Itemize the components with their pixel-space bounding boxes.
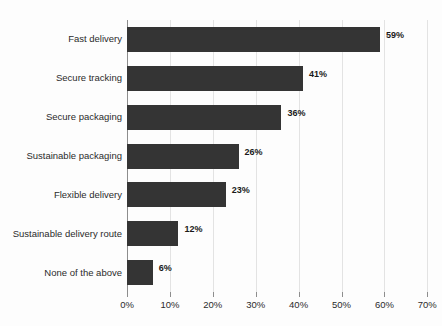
bar-row: 6% xyxy=(127,253,427,292)
bar-value-label: 12% xyxy=(184,224,202,234)
bar xyxy=(127,182,226,207)
category-label: Flexible delivery xyxy=(0,189,122,200)
bar xyxy=(127,144,239,169)
x-axis-tick-40 xyxy=(299,292,300,297)
category-label: Secure packaging xyxy=(0,111,122,122)
x-tick-label: 30% xyxy=(246,299,265,310)
x-axis-tick-20 xyxy=(213,292,214,297)
bar-row: 59% xyxy=(127,20,427,59)
bars: 59%41%36%26%23%12%6% xyxy=(127,20,427,292)
bar-value-label: 41% xyxy=(309,69,327,79)
category-label: Sustainable packaging xyxy=(0,150,122,161)
bar-row: 26% xyxy=(127,137,427,176)
x-tick-label: 20% xyxy=(203,299,222,310)
bar-value-label: 6% xyxy=(159,263,172,273)
category-label: Secure tracking xyxy=(0,72,122,83)
bar xyxy=(127,260,153,285)
y-axis-category-labels: Fast deliverySecure trackingSecure packa… xyxy=(0,20,122,292)
x-axis-tick-30 xyxy=(256,292,257,297)
category-label: Fast delivery xyxy=(0,33,122,44)
bar-value-label: 23% xyxy=(232,185,250,195)
bar xyxy=(127,66,303,91)
category-label: None of the above xyxy=(0,267,122,278)
category-label: Sustainable delivery route xyxy=(0,228,122,239)
x-tick-label: 40% xyxy=(289,299,308,310)
x-tick-label: 50% xyxy=(332,299,351,310)
bar-row: 23% xyxy=(127,175,427,214)
bar-chart: Fast deliverySecure trackingSecure packa… xyxy=(0,0,442,326)
x-axis-tick-labels: 0%10%20%30%40%50%60%70% xyxy=(0,299,442,315)
x-axis-tick-10 xyxy=(170,292,171,297)
x-axis-tick-70 xyxy=(427,292,428,297)
bar-value-label: 59% xyxy=(386,30,404,40)
bar-row: 12% xyxy=(127,214,427,253)
x-tick-label: 10% xyxy=(160,299,179,310)
x-axis-tick-60 xyxy=(384,292,385,297)
gridline-70 xyxy=(427,20,428,292)
x-axis-tick-50 xyxy=(342,292,343,297)
bar-row: 36% xyxy=(127,98,427,137)
x-axis-tick-0 xyxy=(127,292,128,297)
x-tick-label: 60% xyxy=(375,299,394,310)
bar-value-label: 36% xyxy=(287,108,305,118)
bar xyxy=(127,27,380,52)
x-tick-label: 70% xyxy=(418,299,437,310)
bar xyxy=(127,221,178,246)
bar-row: 41% xyxy=(127,59,427,98)
x-tick-label: 0% xyxy=(120,299,134,310)
bar-value-label: 26% xyxy=(245,147,263,157)
plot-area: 59%41%36%26%23%12%6% xyxy=(127,20,427,292)
bar xyxy=(127,105,281,130)
